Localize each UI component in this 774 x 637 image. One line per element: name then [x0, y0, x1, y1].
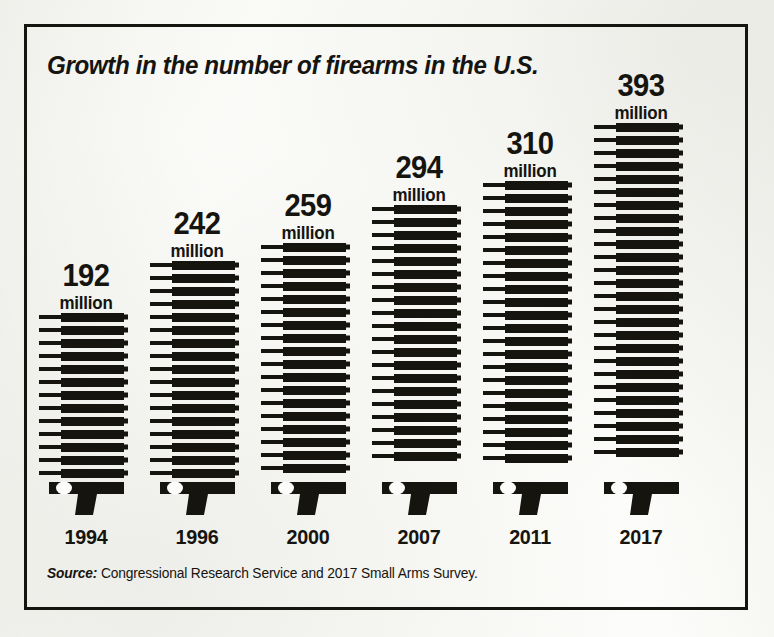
- firearm-stack-icon-2011: [475, 181, 585, 515]
- value-callout-2007: 294 million: [364, 152, 474, 204]
- value-unit-2011: million: [478, 162, 581, 180]
- value-number-2011: 310: [478, 128, 581, 159]
- firearms-growth-infographic: Growth in the number of firearms in the …: [0, 0, 774, 637]
- plot-area: 192 million: [24, 24, 748, 610]
- year-label-1994: 1994: [34, 525, 137, 549]
- firearm-stack-icon-2007: [364, 205, 474, 515]
- firearm-stack-icon-1994: [31, 313, 141, 515]
- bar-group-2007: 294 million: [364, 24, 474, 610]
- value-unit-1996: million: [145, 242, 248, 260]
- bar-2011: [475, 181, 585, 515]
- firearm-stack-icon-2017: [586, 123, 696, 515]
- year-label-2000: 2000: [256, 525, 359, 549]
- value-unit-2007: million: [367, 186, 470, 204]
- bar-group-2017: 393 million: [586, 24, 696, 610]
- value-unit-1994: million: [34, 294, 137, 312]
- value-number-1994: 192: [34, 260, 137, 291]
- value-callout-1996: 242 million: [142, 208, 252, 260]
- bar-group-1996: 242 million: [142, 24, 252, 610]
- value-unit-2017: million: [589, 104, 692, 122]
- bar-2017: [586, 123, 696, 515]
- bar-1996: [142, 261, 252, 515]
- source-note: Source: Congressional Research Service a…: [47, 565, 478, 581]
- bar-2007: [364, 205, 474, 515]
- bar-group-1994: 192 million: [31, 24, 141, 610]
- year-label-2007: 2007: [367, 525, 470, 549]
- source-text: Congressional Research Service and 2017 …: [97, 565, 477, 581]
- bar-group-2011: 310 million: [475, 24, 585, 610]
- year-label-2017: 2017: [589, 525, 692, 549]
- value-callout-2011: 310 million: [475, 128, 585, 180]
- year-label-1996: 1996: [145, 525, 248, 549]
- value-number-2000: 259: [256, 190, 359, 221]
- value-unit-2000: million: [256, 224, 359, 242]
- source-label: Source:: [47, 565, 97, 581]
- firearm-stack-icon-1996: [142, 261, 252, 515]
- bar-group-2000: 259 million: [253, 24, 363, 610]
- bar-2000: [253, 243, 363, 515]
- value-callout-1994: 192 million: [31, 260, 141, 312]
- value-number-2017: 393: [589, 70, 692, 101]
- value-callout-2000: 259 million: [253, 190, 363, 242]
- firearm-stack-icon-2000: [253, 243, 363, 515]
- value-number-1996: 242: [145, 208, 248, 239]
- bar-1994: [31, 313, 141, 515]
- value-number-2007: 294: [367, 152, 470, 183]
- year-label-2011: 2011: [478, 525, 581, 549]
- value-callout-2017: 393 million: [586, 70, 696, 122]
